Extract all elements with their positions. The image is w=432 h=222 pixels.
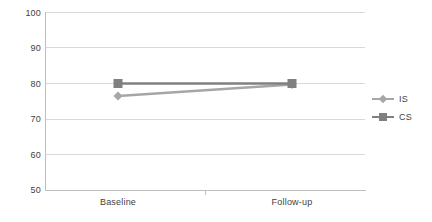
data-point-CS-followup bbox=[288, 79, 297, 88]
legend-key-is bbox=[372, 93, 394, 105]
series-layer bbox=[0, 0, 432, 222]
legend-label-is: IS bbox=[399, 94, 408, 104]
legend-item-is[interactable]: IS bbox=[372, 90, 432, 108]
data-point-IS-baseline bbox=[114, 92, 123, 101]
legend-key-cs bbox=[372, 111, 394, 123]
diamond-marker-icon bbox=[379, 95, 387, 103]
legend-label-cs: CS bbox=[399, 112, 412, 122]
data-point-CS-baseline bbox=[114, 79, 123, 88]
legend: IS CS bbox=[372, 90, 432, 126]
x-tick-label-followup: Follow-up bbox=[257, 197, 327, 208]
x-tick-label-baseline: Baseline bbox=[83, 197, 153, 208]
line-chart: 100 90 80 70 60 50 Baseline Follow-up bbox=[0, 0, 432, 222]
legend-item-cs[interactable]: CS bbox=[372, 108, 432, 126]
square-marker-icon bbox=[379, 113, 387, 121]
